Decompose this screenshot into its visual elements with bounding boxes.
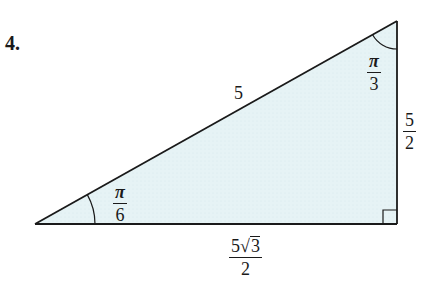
angle-label-pi-over-6: π 6 bbox=[113, 183, 127, 224]
vertical-side-numerator: 5 bbox=[403, 111, 416, 131]
radicand: 3 bbox=[250, 236, 260, 255]
angle-label-pi-over-3: π 3 bbox=[367, 52, 381, 93]
horizontal-side-length-label: 5√3 2 bbox=[229, 236, 262, 278]
angle-numerator: π bbox=[367, 52, 381, 72]
horizontal-side-numerator: 5√3 bbox=[229, 236, 262, 257]
vertical-side-length-label: 5 2 bbox=[403, 111, 416, 152]
angle-denominator: 6 bbox=[115, 204, 124, 224]
vertical-side-denominator: 2 bbox=[405, 132, 414, 152]
right-triangle-diagram bbox=[0, 0, 427, 281]
angle-denominator: 3 bbox=[369, 73, 378, 93]
hypotenuse-length-label: 5 bbox=[234, 84, 243, 102]
horizontal-side-denominator: 2 bbox=[241, 258, 250, 278]
radical-symbol: √ bbox=[240, 237, 250, 255]
square-root: √3 bbox=[240, 236, 260, 255]
angle-numerator: π bbox=[113, 183, 127, 203]
coefficient: 5 bbox=[231, 236, 240, 256]
